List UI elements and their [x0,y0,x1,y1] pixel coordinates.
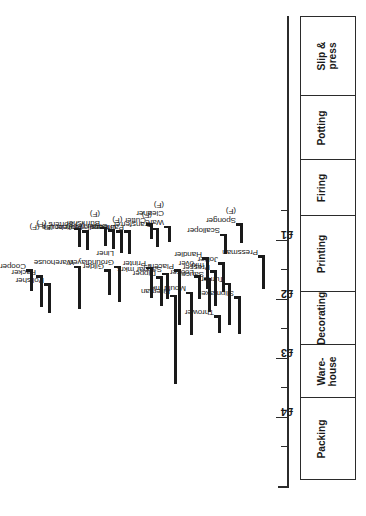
axis-tick-label: £2 [281,288,293,300]
department-divider [300,215,356,216]
range-bar-cap [146,223,153,225]
range-bar [168,228,171,242]
range-bar-cap [218,262,225,264]
range-bar [222,265,225,292]
range-bar [40,278,43,308]
axis-tick-label: £4 [281,406,293,418]
range-bar-cap [116,230,123,232]
range-bar [262,258,265,290]
bar-label: Gilder [83,261,104,270]
range-bar [78,230,81,247]
range-bar-cap [224,283,231,285]
range-bar-cap [220,234,227,236]
axis-end-cap [278,487,287,489]
range-bar-cap [44,283,51,285]
range-bar-cap [124,230,131,232]
bar-label: Warehouse [34,258,74,267]
department-label: Slip & press [316,16,338,96]
department-label: Potting [316,96,327,160]
bar-label: Pressman [222,247,258,256]
department-divider [300,159,356,160]
axis-tick-minor [281,446,287,447]
axis-tick-label: £3 [281,347,293,359]
range-bar [178,272,181,325]
range-bar-cap [236,223,243,225]
department-divider [300,344,356,345]
range-bar [150,226,153,239]
range-bar-cap [234,296,241,298]
plot-area: £4£3£2£1SlipmakerPressmanThrowerTurnerSa… [0,0,366,516]
range-bar-cap [114,266,121,268]
range-bar [174,297,177,384]
range-bar-cap [100,227,107,229]
range-bar-cap [36,275,43,277]
range-bar-cap [174,269,181,271]
range-bar-cap [194,275,201,277]
range-bar [198,278,201,299]
department-divider [300,291,356,292]
bar-label: Sorters (F) [36,220,74,229]
range-bar [224,236,227,254]
range-bar [214,273,217,306]
bar-label: Handler [174,249,202,258]
range-bar [120,233,123,253]
range-bar-cap [26,269,33,271]
range-bar-cap [146,267,153,269]
range-bar-cap [156,276,163,278]
department-label: Ware- house [316,345,338,398]
range-bar [128,233,131,254]
range-bar-cap [74,228,81,230]
range-bar-cap [210,270,217,272]
range-bar-cap [258,255,265,257]
range-bar [190,294,193,335]
range-bar-cap [152,228,159,230]
range-bar [150,269,153,297]
range-bar [78,268,81,309]
range-bar-cap [82,230,89,232]
range-bar [240,226,243,244]
bar-label: Printer [123,259,146,268]
range-bar-cap [74,266,81,268]
range-bar [228,285,231,325]
range-bar [112,232,115,250]
range-bar [206,260,209,290]
range-bar-cap [108,229,115,231]
axis-tick-minor [281,210,287,211]
range-bar [156,230,159,247]
axis-tick-label: £1 [281,229,293,241]
axis-tick-minor [281,269,287,270]
range-bar-cap [214,315,221,317]
bar-label: Scalloper [187,226,220,235]
range-bar [86,233,89,251]
chart-figure: £4£3£2£1SlipmakerPressmanThrowerTurnerSa… [0,0,366,516]
range-bar [166,275,169,299]
bar-label: Cooper [0,261,26,270]
department-label: Decorating [316,292,327,345]
range-bar-cap [164,226,171,228]
range-bar-cap [162,273,169,275]
range-bar [30,272,33,291]
range-bar [238,299,241,334]
department-label: Firing [316,160,327,216]
range-bar-cap [186,292,193,294]
range-bar-cap [170,295,177,297]
range-bar [218,318,221,333]
range-bar [160,279,163,306]
range-bar [118,268,121,302]
department-label: Printing [316,216,327,292]
axis-tick-minor [281,328,287,329]
range-bar [108,272,111,296]
department-label: Packing [316,398,327,480]
range-bar-cap [202,258,209,260]
range-bar-cap [104,269,111,271]
axis-tick-minor [281,387,287,388]
range-bar [48,286,51,313]
bar-label: Sponger (F) [206,206,236,223]
range-bar [104,229,107,246]
